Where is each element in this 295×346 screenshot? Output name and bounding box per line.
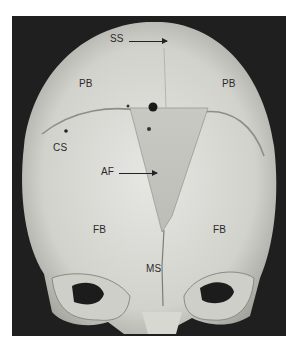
defect-spot	[127, 105, 130, 108]
label-anterior-fontanelle: AF	[101, 166, 114, 177]
arrow-sagittal-suture	[129, 41, 167, 42]
label-parietal-bone-right: PB	[222, 78, 236, 89]
label-coronal-suture: CS	[53, 142, 67, 153]
label-frontal-bone-right: FB	[213, 224, 226, 235]
arrow-anterior-fontanelle	[119, 173, 157, 174]
defect-spot	[149, 103, 158, 112]
nasal-bridge	[142, 312, 182, 334]
skull-illustration	[12, 16, 286, 336]
skull-image-frame: SS PB PB CS AF FB FB MS	[12, 16, 286, 336]
defect-spot	[64, 129, 68, 133]
label-metopic-suture: MS	[146, 263, 161, 274]
defect-spot	[147, 127, 151, 131]
label-frontal-bone-left: FB	[93, 224, 106, 235]
label-sagittal-suture: SS	[110, 33, 124, 44]
label-parietal-bone-left: PB	[79, 78, 93, 89]
